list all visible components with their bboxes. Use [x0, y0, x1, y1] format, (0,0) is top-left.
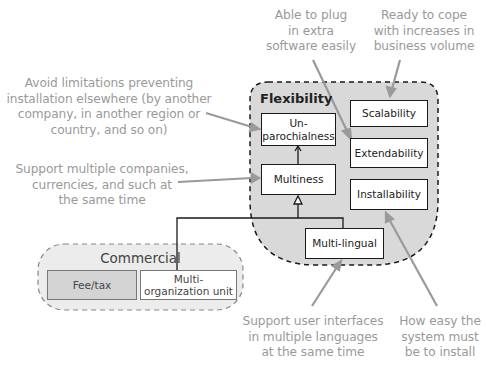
multi-organization-unit-box[interactable]: Multi- organization unit [140, 270, 237, 300]
annotation-multilingual: Support user interfaces in multiple lang… [238, 314, 388, 361]
installability-label: Installability [357, 188, 421, 201]
multiness-label: Multiness [274, 173, 324, 186]
annotation-unparochialness: Avoid limitations preventing installatio… [4, 76, 214, 138]
extendability-box[interactable]: Extendability [350, 138, 428, 168]
extendability-label: Extendability [355, 147, 424, 160]
annotation-extendability: Able to plug in extra software easily [255, 8, 367, 55]
annotation-installability: How easy the system must be to install [394, 314, 486, 361]
installability-box[interactable]: Installability [350, 179, 428, 210]
fee-tax-label: Fee/tax [73, 279, 112, 292]
annotation-multiness: Support multiple companies, currencies, … [14, 162, 190, 209]
unparochialness-label-line2: parochialness [262, 130, 334, 143]
annotation-scalability: Ready to cope with increases in business… [362, 8, 486, 55]
multilingual-box[interactable]: Multi-lingual [305, 228, 384, 259]
scalability-box[interactable]: Scalability [350, 100, 428, 127]
scalability-label: Scalability [362, 107, 416, 120]
multilingual-label: Multi-lingual [312, 237, 377, 250]
multi-org-label-line1: Multi- [174, 273, 203, 286]
multiness-box[interactable]: Multiness [261, 164, 336, 195]
unparochialness-box[interactable]: Un- parochialness [261, 113, 336, 146]
flexibility-title: Flexibility [260, 91, 332, 106]
commercial-title: Commercial [0, 250, 281, 266]
multi-org-label-line2: organization unit [144, 285, 233, 298]
fee-tax-box[interactable]: Fee/tax [47, 270, 137, 300]
unparochialness-label-line1: Un- [289, 117, 307, 130]
